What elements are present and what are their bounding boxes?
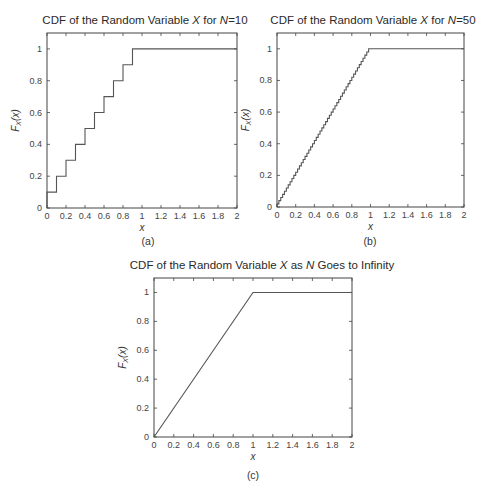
- x-tick-label: 1.6: [420, 210, 433, 220]
- x-tick-label: 0.2: [60, 211, 73, 221]
- cdf-curve: [47, 49, 237, 208]
- x-tick-label: 1.8: [326, 440, 339, 450]
- x-tick-label: 0.6: [327, 210, 340, 220]
- x-tick-label: 0.8: [346, 210, 359, 220]
- plot-frame: [47, 33, 237, 208]
- y-tick-label: 0.4: [259, 139, 272, 149]
- x-tick-label: 0: [274, 210, 279, 220]
- y-tick-label: 0.2: [259, 170, 272, 180]
- chart-caption: (a): [142, 235, 155, 247]
- x-tick-label: 2: [349, 440, 354, 450]
- chart-title: CDF of the Random Variable X for N=50: [270, 14, 475, 26]
- chart-title-part: =10: [228, 14, 248, 26]
- chart-caption: (c): [247, 469, 259, 481]
- chart-a: CDF of the Random Variable X for N=1000.…: [10, 14, 248, 247]
- x-axis-label: x: [139, 222, 146, 233]
- x-tick-label: 0.4: [79, 211, 92, 221]
- y-tick-label: 0: [37, 203, 42, 213]
- x-tick-label: 1.6: [193, 211, 206, 221]
- x-tick-label: 1.4: [286, 440, 299, 450]
- chart-title-part: as: [287, 259, 306, 271]
- chart-c: CDF of the Random Variable X as N Goes t…: [117, 259, 394, 481]
- chart-title-part: Goes to Infinity: [314, 259, 394, 271]
- y-tick-label: 0.2: [29, 171, 42, 181]
- y-tick-label: 0.8: [136, 316, 149, 326]
- x-tick-label: 0.6: [98, 211, 111, 221]
- y-tick-label: 0.8: [259, 75, 272, 85]
- x-tick-label: 2: [234, 211, 239, 221]
- cdf-curve: [277, 49, 464, 207]
- y-axis-label: FX(x): [10, 109, 22, 131]
- y-tick-label: 0.6: [259, 107, 272, 117]
- chart-title-part: CDF of the Random Variable: [270, 14, 420, 26]
- cdf-curve: [154, 292, 352, 437]
- figure: CDF of the Random Variable X for N=1000.…: [0, 0, 490, 490]
- x-tick-label: 1.2: [267, 440, 280, 450]
- x-tick-label: 0.2: [168, 440, 181, 450]
- y-tick-label: 0: [144, 432, 149, 442]
- chart-title-part: =50: [456, 14, 476, 26]
- x-axis-label: x: [250, 451, 257, 462]
- chart-b: CDF of the Random Variable X for N=5000.…: [240, 14, 476, 247]
- y-tick-label: 0.4: [29, 139, 42, 149]
- x-tick-label: 1: [139, 211, 144, 221]
- y-tick-label: 0.4: [136, 374, 149, 384]
- y-axis-label: FX(x): [117, 346, 129, 368]
- y-tick-label: 1: [37, 44, 42, 54]
- x-tick-label: 2: [461, 210, 466, 220]
- y-tick-label: 0: [267, 202, 272, 212]
- x-tick-label: 0: [151, 440, 156, 450]
- x-tick-label: 1: [368, 210, 373, 220]
- x-tick-label: 1.6: [306, 440, 319, 450]
- chart-title-part: CDF of the Random Variable: [130, 259, 280, 271]
- y-axis-label: FX(x): [240, 109, 252, 131]
- y-axis-label-part: (x): [117, 346, 128, 358]
- y-tick-label: 1: [267, 44, 272, 54]
- x-tick-label: 0: [44, 211, 49, 221]
- plot-frame: [277, 33, 464, 207]
- x-tick-label: 0.8: [227, 440, 240, 450]
- chart-title: CDF of the Random Variable X for N=10: [42, 14, 247, 26]
- x-tick-label: 0.4: [187, 440, 200, 450]
- y-tick-label: 0.8: [29, 76, 42, 86]
- y-axis-label-part: (x): [10, 109, 21, 121]
- x-tick-label: 1.8: [439, 210, 452, 220]
- y-tick-label: 1: [144, 287, 149, 297]
- x-tick-label: 1.4: [174, 211, 187, 221]
- plot-frame: [154, 278, 352, 437]
- x-tick-label: 1.2: [383, 210, 396, 220]
- x-tick-label: 0.2: [289, 210, 302, 220]
- y-axis-label-part: (x): [240, 109, 251, 121]
- y-tick-label: 0.6: [136, 345, 149, 355]
- y-tick-label: 0.2: [136, 403, 149, 413]
- chart-title-part: CDF of the Random Variable: [42, 14, 192, 26]
- chart-title-part: for: [428, 14, 448, 26]
- x-tick-label: 1: [250, 440, 255, 450]
- chart-title: CDF of the Random Variable X as N Goes t…: [130, 259, 395, 271]
- x-tick-label: 0.6: [207, 440, 220, 450]
- x-axis-label: x: [367, 221, 374, 232]
- y-tick-label: 0.6: [29, 108, 42, 118]
- x-tick-label: 0.8: [117, 211, 130, 221]
- x-tick-label: 1.4: [402, 210, 415, 220]
- x-tick-label: 1.2: [155, 211, 168, 221]
- chart-title-part: for: [200, 14, 220, 26]
- chart-caption: (b): [364, 235, 377, 247]
- x-tick-label: 1.8: [212, 211, 225, 221]
- x-tick-label: 0.4: [308, 210, 321, 220]
